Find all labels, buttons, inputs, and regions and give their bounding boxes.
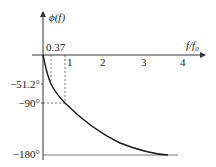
y-tick-label-512: −51.2°	[10, 78, 40, 90]
phase-response-chart: ϕ(f) f/f0 0.37 1 2 3 4 −51.2° −90° −180°	[0, 0, 216, 167]
y-tick-label-90: −90°	[18, 97, 40, 109]
x-tick-label-037: 0.37	[46, 41, 66, 53]
x-tick-label-1: 1	[67, 56, 73, 68]
x-tick-label-2: 2	[100, 56, 106, 68]
phase-curve	[43, 55, 168, 155]
x-tick-label-4: 4	[180, 56, 186, 68]
x-axis-label: f/f0	[186, 39, 199, 53]
y-axis-label: ϕ(f)	[49, 11, 65, 24]
y-tick-label-180: −180°	[13, 148, 40, 160]
x-tick-label-3: 3	[141, 56, 147, 68]
